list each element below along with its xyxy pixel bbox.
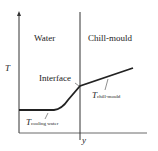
temperature-profile-diagram — [0, 0, 158, 151]
temp-subscript: chill-mould — [97, 94, 120, 99]
mould-leader-line — [105, 79, 108, 90]
interface-label: Interface — [39, 73, 71, 83]
chill-mould-temp-label: Tchill-mould — [92, 90, 120, 100]
temp-subscript: cooling water — [31, 121, 58, 126]
interface-leader-line — [75, 83, 79, 86]
cooling-water-temp-label: Tcooling water — [26, 117, 58, 127]
water-region-label: Water — [34, 33, 55, 43]
x-axis-label: y — [82, 135, 86, 145]
y-axis-label: T — [5, 63, 10, 73]
temperature-curve — [19, 68, 133, 110]
chill-mould-region-label: Chill-mould — [88, 33, 132, 43]
y-axis-arrow — [17, 11, 21, 16]
